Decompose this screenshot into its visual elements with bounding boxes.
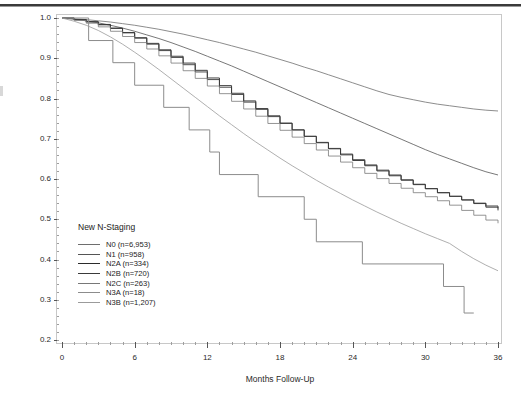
x-tick-mark: [62, 342, 63, 348]
x-axis-title: Months Follow-Up: [62, 374, 498, 384]
y-tick-minor: [57, 107, 59, 108]
x-tick-minor: [413, 342, 414, 345]
legend-swatch-icon: [78, 283, 100, 284]
x-tick-minor: [74, 342, 75, 345]
x-tick-minor: [486, 342, 487, 345]
legend-swatch-icon: [78, 273, 100, 274]
x-tick-minor: [292, 342, 293, 345]
y-tick-minor: [57, 260, 59, 261]
x-tick-minor: [171, 342, 172, 345]
y-tick-minor: [57, 187, 59, 188]
legend-swatch-icon: [78, 254, 100, 255]
x-tick-mark: [207, 342, 208, 348]
y-tick-minor: [57, 34, 59, 35]
legend-item-n2c: N2C (n=263): [78, 278, 156, 288]
legend-item-label: N0 (n=6,953): [106, 240, 151, 249]
x-tick-label: 12: [195, 354, 219, 362]
y-tick-label: 0.4: [27, 256, 51, 264]
y-tick-label: 0.5: [27, 215, 51, 223]
legend-item-n2b: N2B (n=720): [78, 269, 156, 279]
y-tick-minor: [57, 268, 59, 269]
y-tick-minor: [57, 308, 59, 309]
x-tick-minor: [195, 342, 196, 345]
y-tick-minor: [57, 90, 59, 91]
legend-item-label: N1 (n=958): [106, 250, 144, 259]
y-tick-minor: [57, 66, 59, 67]
y-tick-minor: [57, 131, 59, 132]
x-tick-label: 36: [486, 354, 510, 362]
legend-swatch-icon: [78, 292, 100, 293]
legend-item-label: N2A (n=334): [106, 259, 149, 268]
legend-item-label: N3A (n=18): [106, 288, 145, 297]
y-tick-minor: [57, 276, 59, 277]
x-tick-mark: [280, 342, 281, 348]
x-tick-minor: [268, 342, 269, 345]
x-tick-minor: [377, 342, 378, 345]
y-tick-label: 0.8: [27, 95, 51, 103]
y-tick-minor: [57, 219, 59, 220]
legend-title: New N-Staging: [78, 222, 156, 232]
x-tick-minor: [365, 342, 366, 345]
legend-swatch-icon: [78, 302, 100, 303]
y-tick-minor: [57, 340, 59, 341]
x-tick-minor: [256, 342, 257, 345]
y-tick-minor: [57, 147, 59, 148]
x-tick-minor: [159, 342, 160, 345]
y-tick-label: 0.6: [27, 175, 51, 183]
x-tick-mark: [135, 342, 136, 348]
x-tick-minor: [183, 342, 184, 345]
x-tick-minor: [341, 342, 342, 345]
x-tick-minor: [462, 342, 463, 345]
y-tick-minor: [57, 26, 59, 27]
x-tick-minor: [328, 342, 329, 345]
legend-item-n3b: N3B (n=1,207): [78, 298, 156, 308]
y-tick-minor: [57, 163, 59, 164]
x-tick-minor: [474, 342, 475, 345]
legend-item-n3a: N3A (n=18): [78, 288, 156, 298]
survival-curve-n0: [62, 18, 498, 111]
page-edge-artifact: [0, 86, 3, 96]
x-tick-minor: [316, 342, 317, 345]
y-tick-minor: [57, 42, 59, 43]
y-tick-minor: [57, 227, 59, 228]
legend-item-label: N3B (n=1,207): [106, 298, 156, 307]
x-tick-minor: [123, 342, 124, 345]
x-tick-label: 0: [50, 354, 74, 362]
chart-legend: New N-Staging N0 (n=6,953)N1 (n=958)N2A …: [78, 222, 156, 307]
x-tick-minor: [86, 342, 87, 345]
y-tick-minor: [57, 171, 59, 172]
y-tick-minor: [57, 235, 59, 236]
y-tick-minor: [57, 115, 59, 116]
x-tick-minor: [401, 342, 402, 345]
x-tick-label: 6: [123, 354, 147, 362]
y-tick-minor: [57, 123, 59, 124]
legend-items: N0 (n=6,953)N1 (n=958)N2A (n=334)N2B (n=…: [78, 240, 156, 307]
legend-swatch-icon: [78, 244, 100, 245]
x-tick-minor: [389, 342, 390, 345]
y-tick-minor: [57, 292, 59, 293]
survival-curve-n1: [62, 18, 498, 175]
x-tick-label: 30: [413, 354, 437, 362]
y-tick-label: 0.3: [27, 296, 51, 304]
y-tick-minor: [57, 139, 59, 140]
y-tick-minor: [57, 18, 59, 19]
y-tick-minor: [57, 251, 59, 252]
legend-item-n1: N1 (n=958): [78, 250, 156, 260]
survival-curve-n2a: [62, 18, 498, 210]
y-tick-minor: [57, 74, 59, 75]
legend-item-label: N2C (n=263): [106, 279, 150, 288]
legend-item-n2a: N2A (n=334): [78, 259, 156, 269]
y-tick-label: 0.2: [27, 336, 51, 344]
y-tick-minor: [57, 203, 59, 204]
y-tick-minor: [57, 195, 59, 196]
y-tick-minor: [57, 316, 59, 317]
x-tick-mark: [498, 342, 499, 348]
y-tick-minor: [57, 58, 59, 59]
legend-item-label: N2B (n=720): [106, 269, 149, 278]
y-tick-minor: [57, 324, 59, 325]
y-tick-label: 1.0: [27, 14, 51, 22]
x-tick-minor: [147, 342, 148, 345]
x-tick-mark: [425, 342, 426, 348]
y-tick-minor: [57, 99, 59, 100]
y-tick-label: 0.7: [27, 135, 51, 143]
